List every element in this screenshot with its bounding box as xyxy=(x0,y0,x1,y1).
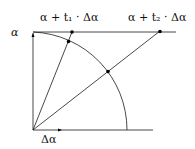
alpha-arrow-icon xyxy=(32,33,35,37)
delta-alpha-label: Δα xyxy=(41,134,56,145)
t2-arc-intersection xyxy=(106,70,110,74)
t2-point xyxy=(158,30,162,34)
delta-arrow-icon xyxy=(58,129,62,132)
t2-label: α + t₂ · Δα xyxy=(128,12,186,23)
diagram: α α + t₁ · Δα α + t₂ · Δα Δα xyxy=(0,0,195,149)
t1-arc-intersection xyxy=(67,40,71,44)
t1-point xyxy=(70,30,74,34)
unit-arc xyxy=(33,32,127,130)
t1-label: α + t₁ · Δα xyxy=(40,12,98,23)
ray-t2 xyxy=(33,31,160,130)
alpha-label: α xyxy=(11,27,18,38)
alpha-text: α xyxy=(11,26,18,39)
